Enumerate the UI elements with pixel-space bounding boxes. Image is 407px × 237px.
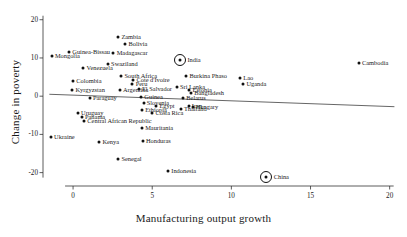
x-axis-title: Manufacturing output growth [0,212,407,224]
data-point-label: Madagascar [117,50,148,56]
data-point-label: Kenya [102,139,119,145]
data-point-label: Honduras [146,137,171,143]
x-tick-label: 15 [307,192,314,200]
data-point[interactable] [50,55,53,58]
data-point[interactable] [88,97,91,100]
data-point-label: Senegal [121,156,141,162]
data-point-label: Argentina [123,87,148,93]
data-point[interactable] [112,52,115,55]
data-point[interactable] [120,74,123,77]
data-point[interactable] [151,111,154,114]
data-point-label: Bolivia [129,41,148,47]
data-point-label: Cambodia [362,60,388,66]
x-tick-label: 20 [386,192,393,200]
data-point-label: Venezuela [87,65,113,71]
y-tick-label: 20 [10,16,38,24]
x-tick-label: 5 [150,192,154,200]
scatter-chart: MongoliaGuinea-BissauZambiaBoliviaMadaga… [0,0,407,237]
data-point-label: Swaziland [111,61,138,67]
data-point[interactable] [76,112,79,115]
data-point[interactable] [182,96,185,99]
data-point[interactable] [117,158,120,161]
data-point[interactable] [140,126,143,129]
data-point[interactable] [71,88,74,91]
data-point-label: Kyrgyzstan [75,86,104,92]
x-tick-label: 10 [228,192,235,200]
data-point[interactable] [242,82,245,85]
data-point-label: Paraguay [93,95,117,101]
data-point[interactable] [132,79,135,82]
data-point[interactable] [140,96,143,99]
data-point[interactable] [72,79,75,82]
data-point[interactable] [83,120,86,123]
axes [0,0,407,237]
data-point-label: Thailand [184,106,207,112]
data-point[interactable] [178,58,181,61]
data-point[interactable] [142,102,145,105]
data-point[interactable] [357,61,360,64]
data-point-label: Costa Rica [155,109,183,115]
data-point-label: Ukraine [54,134,75,140]
data-point[interactable] [140,109,143,112]
plot-area: MongoliaGuinea-BissauZambiaBoliviaMadaga… [0,0,407,237]
data-point-label: Uganda [246,80,266,86]
data-point-label: Central African Republic [87,118,151,124]
data-point-label: India [187,57,200,63]
x-tick-label: 0 [71,192,75,200]
data-point[interactable] [82,67,85,70]
data-point-label: China [274,174,289,180]
data-point[interactable] [265,175,268,178]
data-point[interactable] [185,75,188,78]
data-point-label: Colombia [76,78,101,84]
data-point-label: Guinea-Bissau [72,49,110,55]
data-point[interactable] [68,51,71,54]
data-point-label: Mauritania [145,124,173,130]
data-point[interactable] [175,86,178,89]
data-point[interactable] [239,77,242,80]
data-point-label: Burkina Phaso [189,73,226,79]
y-axis-title: Change in poverty [9,32,21,172]
data-point[interactable] [80,115,83,118]
data-point[interactable] [117,36,120,39]
data-point[interactable] [98,141,101,144]
data-point[interactable] [141,139,144,142]
data-point-label: Indonesia [171,168,196,174]
data-point[interactable] [49,136,52,139]
data-point[interactable] [118,89,121,92]
data-point-label: Belarus [186,95,206,101]
data-point[interactable] [167,169,170,172]
data-point[interactable] [124,43,127,46]
